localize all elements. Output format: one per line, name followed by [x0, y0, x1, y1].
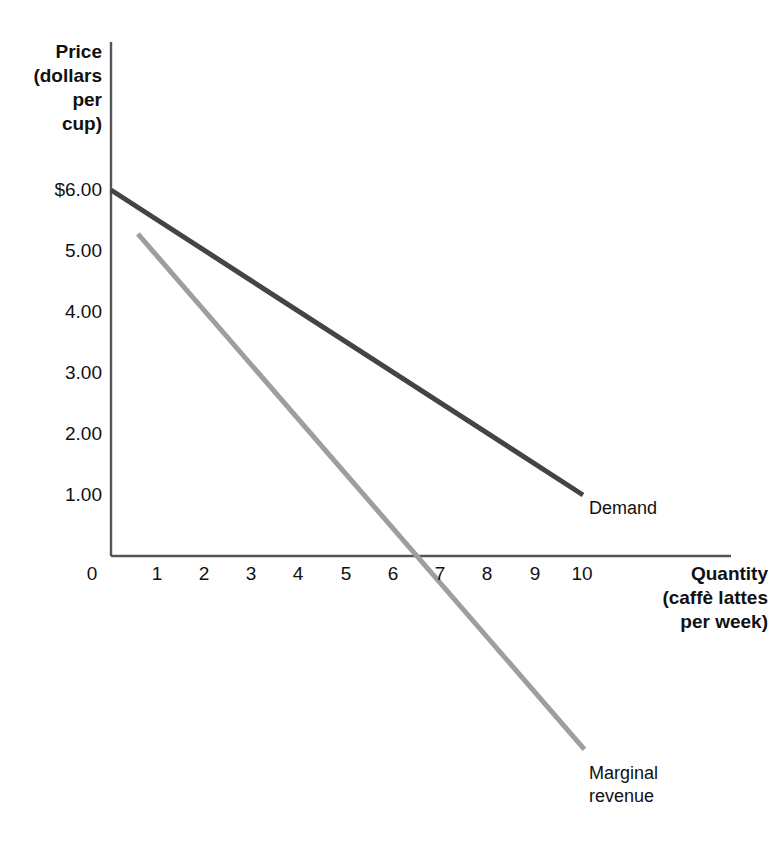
x-tick-label-5: 5	[326, 563, 366, 585]
y-axis-title-line-1: Price	[56, 41, 102, 62]
marginal-revenue-series-label: Marginalrevenue	[589, 762, 658, 808]
x-tick-label-6: 6	[373, 563, 413, 585]
x-tick-label-4: 4	[278, 563, 318, 585]
y-tick-label-2: 2.00	[16, 423, 102, 445]
mr-label-line-1: Marginal	[589, 763, 658, 783]
demand-curve	[111, 190, 583, 495]
x-tick-label-9: 9	[515, 563, 555, 585]
y-axis-title: Price(dollarspercup)	[0, 40, 102, 136]
x-tick-label-8: 8	[467, 563, 507, 585]
y-axis-title-line-3: per	[72, 89, 102, 110]
x-axis-title-line-3: per week)	[680, 611, 768, 632]
chart-figure: Price(dollarspercup) Quantity(caffè latt…	[0, 0, 772, 850]
x-tick-label-7: 7	[420, 563, 460, 585]
x-tick-label-1: 1	[137, 563, 177, 585]
marginal-revenue-curve	[138, 234, 585, 750]
y-axis-title-line-2: (dollars	[33, 65, 102, 86]
demand-series-label: Demand	[589, 497, 657, 520]
mr-label-line-2: revenue	[589, 786, 654, 806]
chart-plot-area	[0, 0, 772, 850]
x-tick-label-0: 0	[72, 563, 112, 585]
x-axis-title: Quantity(caffè lattesper week)	[600, 562, 768, 634]
y-tick-label-6: $6.00	[16, 179, 102, 201]
x-tick-label-2: 2	[184, 563, 224, 585]
y-axis-title-line-4: cup)	[62, 113, 102, 134]
y-tick-label-3: 3.00	[16, 362, 102, 384]
x-tick-label-10: 10	[562, 563, 602, 585]
y-tick-label-5: 5.00	[16, 240, 102, 262]
y-tick-label-4: 4.00	[16, 301, 102, 323]
y-tick-label-1: 1.00	[16, 484, 102, 506]
x-axis-title-line-1: Quantity	[691, 563, 768, 584]
x-axis-title-line-2: (caffè lattes	[662, 587, 768, 608]
x-tick-label-3: 3	[231, 563, 271, 585]
